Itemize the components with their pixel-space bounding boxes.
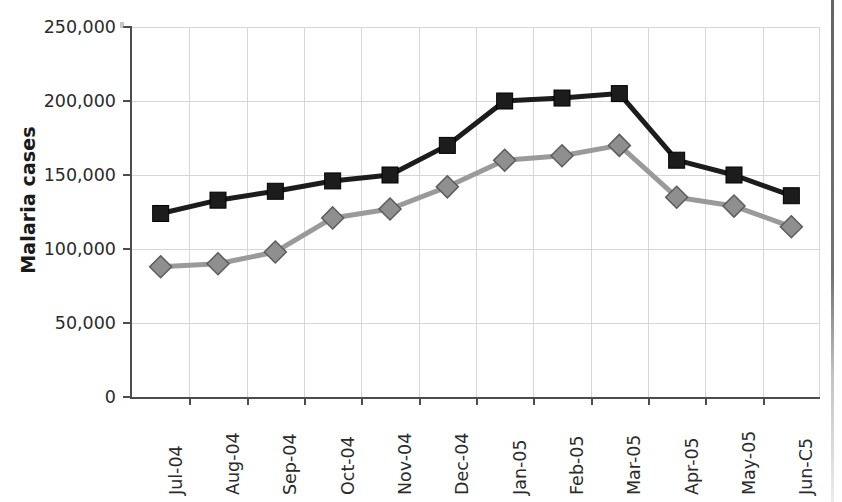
y-tick-label: 100,000 — [44, 239, 116, 259]
x-tick-label-text: Apr-05 — [682, 437, 702, 495]
plot-inner — [132, 27, 820, 397]
y-axis-tick — [123, 100, 132, 102]
data-point-diamond — [780, 216, 802, 238]
x-tick-label-text: Feb-05 — [567, 435, 587, 495]
y-axis-tick-labels: 050,000100,000150,000200,000250,000 — [46, 0, 122, 420]
y-axis-tick — [123, 248, 132, 250]
y-axis-title: Malaria cases — [6, 0, 50, 400]
x-tick-label-text: Nov-04 — [395, 433, 415, 495]
x-tick-label-text: Sep-04 — [280, 433, 300, 495]
data-point-diamond — [723, 195, 745, 217]
data-point-square — [497, 93, 513, 109]
data-point-square — [325, 173, 341, 189]
data-point-square — [726, 167, 742, 183]
data-point-diamond — [322, 207, 344, 229]
x-tick-label-text: May-05 — [739, 431, 759, 495]
data-point-square — [267, 183, 283, 199]
scan-smudge-artifact — [120, 22, 124, 28]
y-axis-tick — [123, 396, 132, 398]
y-axis-tick — [123, 322, 132, 324]
x-tick-label-text: Mar-05 — [624, 435, 644, 495]
x-tick-label-text: Jul-04 — [166, 445, 186, 495]
data-point-diamond — [264, 241, 286, 263]
series-layer — [132, 27, 820, 397]
y-tick-label: 50,000 — [55, 313, 116, 333]
data-point-square — [382, 167, 398, 183]
series-2 — [150, 134, 803, 277]
x-tick-label-text: Jan-05 — [510, 439, 530, 495]
scan-edge-artifact — [831, 0, 834, 502]
data-point-diamond — [379, 198, 401, 220]
data-point-square — [783, 188, 799, 204]
data-point-diamond — [150, 256, 172, 278]
series-line — [161, 94, 792, 214]
data-point-square — [554, 90, 570, 106]
data-point-square — [153, 205, 169, 221]
x-tick-label-text: Oct-04 — [338, 436, 358, 495]
x-tick-label-text: Dec-04 — [452, 433, 472, 495]
data-point-square — [210, 192, 226, 208]
y-tick-label: 0 — [105, 387, 116, 407]
data-point-square — [669, 152, 685, 168]
x-axis-tick-labels: Jul-04Aug-04Sep-04Oct-04Nov-04Dec-04Jan-… — [130, 399, 820, 502]
y-axis-title-label: Malaria cases — [17, 126, 39, 273]
data-point-diamond — [207, 253, 229, 275]
y-tick-label: 150,000 — [44, 165, 116, 185]
chart-page: Malaria cases 050,000100,000150,000200,0… — [0, 0, 842, 502]
y-tick-label: 200,000 — [44, 91, 116, 111]
plot-area — [130, 27, 820, 399]
data-point-diamond — [551, 145, 573, 167]
data-point-diamond — [436, 176, 458, 198]
x-tick-label-text: Aug-04 — [223, 432, 243, 495]
data-point-square — [439, 137, 455, 153]
x-tick-label-text: Jun-C5 — [796, 438, 816, 495]
data-point-diamond — [494, 149, 516, 171]
data-point-square — [611, 86, 627, 102]
y-axis-tick — [123, 26, 132, 28]
y-tick-label: 250,000 — [44, 17, 116, 37]
y-axis-tick — [123, 174, 132, 176]
